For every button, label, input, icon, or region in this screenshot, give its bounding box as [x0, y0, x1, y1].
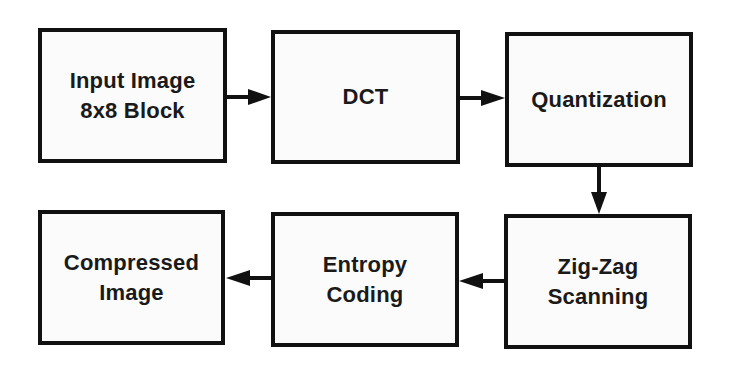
- arrow-entropy-to-compressed: [226, 270, 271, 286]
- arrow-quantization-to-zigzag: [591, 167, 607, 214]
- node-label: Zig-Zag Scanning: [548, 252, 649, 312]
- node-quantization: Quantization: [505, 32, 693, 167]
- node-label: Input Image 8x8 Block: [70, 66, 196, 126]
- node-input-image: Input Image 8x8 Block: [38, 28, 227, 163]
- arrow-dct-to-quantization: [460, 90, 505, 106]
- node-label: Quantization: [531, 85, 667, 115]
- node-label: Entropy Coding: [323, 250, 408, 310]
- node-label: DCT: [343, 82, 389, 112]
- node-compressed-image: Compressed Image: [38, 210, 225, 345]
- node-dct: DCT: [271, 30, 460, 164]
- node-zigzag-scanning: Zig-Zag Scanning: [504, 214, 692, 349]
- node-label: Compressed Image: [64, 248, 199, 308]
- arrow-input-to-dct: [227, 89, 271, 105]
- arrow-zigzag-to-entropy: [459, 273, 504, 289]
- node-entropy-coding: Entropy Coding: [271, 212, 459, 347]
